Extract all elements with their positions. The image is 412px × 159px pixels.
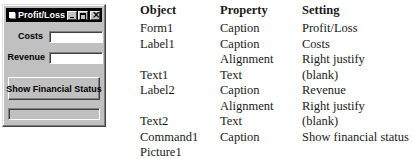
maximize-button[interactable] — [78, 11, 88, 20]
header-object: Object — [140, 2, 220, 19]
cell-object — [140, 99, 220, 115]
cell-property: Alignment — [220, 99, 302, 115]
cell-setting: Profit/Loss — [302, 21, 412, 37]
cell-object: Label2 — [140, 83, 220, 99]
table-row: Label2 Caption Revenue — [140, 83, 412, 99]
cell-property: Caption — [220, 37, 302, 53]
costs-textbox[interactable] — [49, 31, 103, 43]
cell-setting: Costs — [302, 37, 412, 53]
cell-object: Command1 — [140, 130, 220, 146]
minimize-button[interactable] — [67, 11, 77, 20]
cell-object — [140, 52, 220, 68]
cell-setting: Show financial status — [302, 130, 412, 146]
cell-object: Label1 — [140, 37, 220, 53]
properties-table: Object Property Setting Form1 Caption Pr… — [140, 2, 412, 159]
table-row: Alignment Right justify — [140, 52, 412, 68]
cell-property: Caption — [220, 21, 302, 37]
table-row: Command1 Caption Show financial status — [140, 130, 412, 146]
cell-object: Form1 — [140, 21, 220, 37]
cell-property: Caption — [220, 130, 302, 146]
window-title: Profit/Loss — [18, 10, 67, 20]
revenue-label: Revenue — [3, 52, 45, 62]
header-setting: Setting — [302, 2, 412, 19]
table-row: Text2 Text (blank) — [140, 114, 412, 130]
title-bar[interactable]: Profit/Loss — [6, 8, 102, 22]
cell-setting: Revenue — [302, 83, 412, 99]
cell-setting: Right justify — [302, 99, 412, 115]
header-property: Property — [220, 2, 302, 19]
cell-object: Text2 — [140, 114, 220, 130]
cell-object: Picture1 — [140, 145, 220, 159]
table-header: Object Property Setting — [140, 2, 412, 19]
table-row: Text1 Text (blank) — [140, 68, 412, 84]
cell-property — [220, 145, 302, 159]
cell-setting: (blank) — [302, 68, 412, 84]
cell-setting: (blank) — [302, 114, 412, 130]
form-icon — [9, 12, 15, 18]
table-row: Label1 Caption Costs — [140, 37, 412, 53]
cell-object: Text1 — [140, 68, 220, 84]
cell-setting — [302, 145, 412, 159]
close-button[interactable] — [90, 11, 100, 20]
show-financial-status-button[interactable]: Show Financial Status — [8, 77, 100, 100]
table-row: Form1 Caption Profit/Loss — [140, 21, 412, 37]
profit-loss-form-window: Profit/Loss Costs Revenue Show Financial… — [2, 4, 106, 127]
cell-property: Text — [220, 68, 302, 84]
cell-property: Text — [220, 114, 302, 130]
cell-property: Caption — [220, 83, 302, 99]
cell-setting: Right justify — [302, 52, 412, 68]
costs-label: Costs — [7, 31, 43, 41]
table-row: Picture1 — [140, 145, 412, 159]
table-row: Alignment Right justify — [140, 99, 412, 115]
revenue-textbox[interactable] — [49, 52, 103, 64]
picture-box — [8, 108, 100, 120]
cell-property: Alignment — [220, 52, 302, 68]
